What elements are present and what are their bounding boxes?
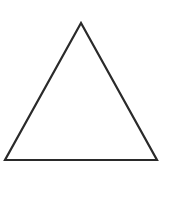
- triangle-shape: [5, 23, 157, 160]
- triangle-figure: [0, 0, 183, 203]
- diagram-canvas: [0, 0, 183, 203]
